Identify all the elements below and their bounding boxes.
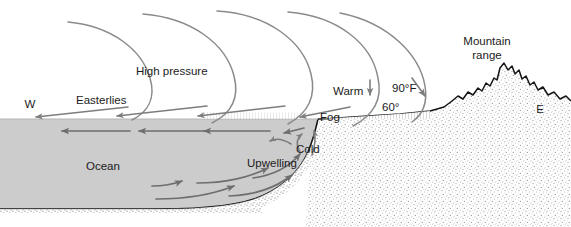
easterlies-label: Easterlies [76, 94, 127, 106]
coastal-temperature-label: 60° [382, 101, 399, 113]
high-pressure-label: High pressure [136, 65, 208, 77]
fog-label: Fog [320, 111, 340, 123]
air-temperature-label: 90°F [392, 82, 416, 94]
upwelling-diagram: W E High pressure Easterlies Warm 90°F 6… [0, 0, 571, 227]
upwelling-label: Upwelling [247, 157, 297, 169]
mountain-range-label-line1: Mountain [463, 35, 510, 47]
ocean-label: Ocean [86, 160, 120, 172]
mountain-range-label-line2: range [472, 49, 501, 61]
compass-east-label: E [536, 103, 544, 115]
warm-label: Warm [333, 85, 363, 97]
diagram-canvas: W E High pressure Easterlies Warm 90°F 6… [0, 0, 571, 227]
compass-west-label: W [25, 98, 36, 110]
cold-label: Cold [296, 143, 320, 155]
